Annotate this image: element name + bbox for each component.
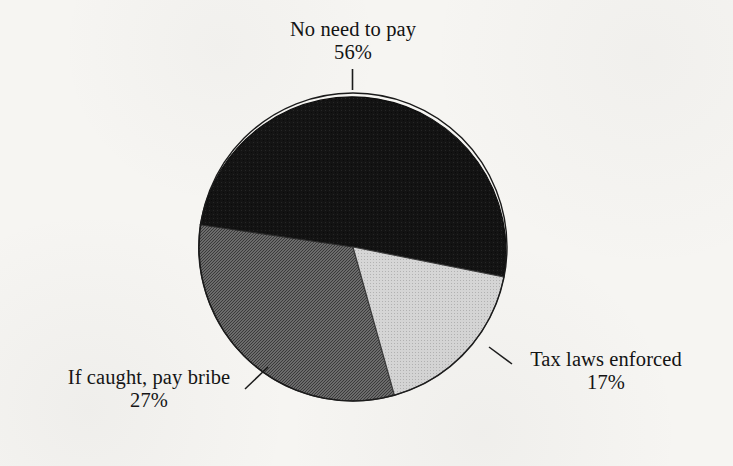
pie-chart-figure: No need to pay 56% Tax laws enforced 17%… [0, 0, 733, 466]
slice-label-name: No need to pay [228, 18, 478, 41]
slice-label-name: If caught, pay bribe [35, 366, 263, 389]
slice-label-percent: 56% [228, 41, 478, 64]
slice-label-name: Tax laws enforced [496, 348, 716, 371]
slice-label-no-need-to-pay: No need to pay 56% [228, 18, 478, 64]
slice-label-percent: 27% [35, 389, 263, 412]
slice-label-percent: 17% [496, 371, 716, 394]
slice-label-tax-laws-enforced: Tax laws enforced 17% [496, 348, 716, 394]
slice-label-if-caught-pay-bribe: If caught, pay bribe 27% [35, 366, 263, 412]
